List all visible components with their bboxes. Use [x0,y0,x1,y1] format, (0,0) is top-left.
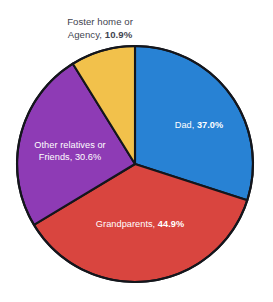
slice-label-dad-name: Dad, [175,120,197,130]
slice-label-other-relatives-pct: 30.6% [75,152,101,162]
slice-label-foster-home-pct: 10.9% [105,29,132,40]
slice-label-other-relatives-name: Friends, [39,152,75,162]
slice-label-grandparents-pct: 44.9% [158,219,184,229]
slice-label-grandparents: Grandparents, 44.9% [74,219,206,231]
slice-label-foster-home-name: Agency, [68,29,105,40]
slice-label-foster-home: Foster home or Agency, 10.9% [38,15,162,41]
slice-label-grandparents-name: Grandparents, [96,219,158,229]
slice-label-other-relatives-line1: Other relatives or [14,140,126,152]
pie-chart: Dad, 37.0% Grandparents, 44.9% Other rel… [0,0,273,302]
slice-label-dad: Dad, 37.0% [160,120,238,132]
pie-slices [17,46,253,282]
slice-label-foster-home-line1: Foster home or [38,15,162,28]
slice-label-foster-home-line2: Agency, 10.9% [38,28,162,41]
slice-label-other-relatives: Other relatives or Friends, 30.6% [14,140,126,163]
slice-label-other-relatives-line2: Friends, 30.6% [14,152,126,164]
slice-label-dad-pct: 37.0% [197,120,223,130]
